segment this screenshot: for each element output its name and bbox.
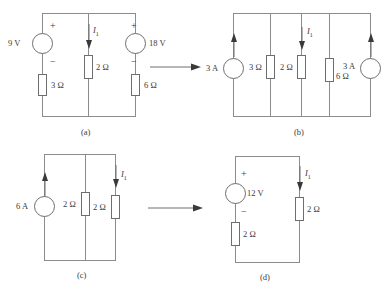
- polarity-minus-9v: −: [50, 57, 56, 67]
- label-9v: 9 V: [8, 39, 20, 48]
- polarity-plus-12v: +: [241, 169, 247, 179]
- label-3a-left: 3 A: [206, 64, 218, 73]
- source-arrow-b-right: [366, 33, 376, 57]
- label-6a: 6 A: [16, 202, 28, 211]
- resistor-2ohm-c-middle: [81, 192, 90, 216]
- current-arrow-c: [111, 165, 121, 189]
- current-label-b: I1: [307, 27, 313, 38]
- current-subscript-c: 1: [124, 175, 127, 181]
- resistor-2ohm-b: [297, 55, 306, 79]
- current-label-d: I1: [305, 169, 311, 180]
- label-3a-right: 3 A: [343, 62, 355, 71]
- voltage-source-9v: [32, 33, 53, 54]
- caption-d: (d): [260, 273, 270, 282]
- wire-c-top: [44, 154, 115, 155]
- label-2ohm-d-series: 2 Ω: [243, 230, 256, 239]
- resistor-2ohm-c-right: [111, 195, 120, 219]
- resistor-3ohm-b: [266, 55, 275, 79]
- current-source-3a-right: [360, 58, 381, 79]
- caption-c: (c): [77, 271, 86, 280]
- label-2ohm-a: 2 Ω: [96, 63, 109, 72]
- label-3ohm-b: 3 Ω: [249, 63, 262, 72]
- current-arrow-b: [297, 27, 307, 51]
- source-arrow-c: [40, 172, 50, 196]
- label-2ohm-c-middle: 2 Ω: [63, 200, 76, 209]
- current-subscript-d: 1: [308, 174, 311, 180]
- transition-arrow-c-to-d: [148, 202, 204, 214]
- resistor-6ohm-b: [325, 58, 334, 82]
- resistor-2ohm-a: [84, 55, 93, 79]
- label-2ohm-b: 2 Ω: [280, 63, 293, 72]
- current-label-a: I1: [93, 26, 99, 37]
- caption-a: (a): [81, 128, 90, 137]
- current-arrow-d: [295, 166, 305, 192]
- wire-d-left: [235, 156, 236, 263]
- label-18v: 18 V: [149, 39, 166, 48]
- resistor-3ohm-a: [38, 74, 47, 96]
- resistor-2ohm-d-branch: [295, 197, 304, 221]
- polarity-plus-18v: +: [131, 21, 137, 31]
- current-subscript-b: 1: [310, 32, 313, 38]
- polarity-minus-18v: −: [131, 57, 137, 67]
- voltage-source-18v: [125, 33, 146, 54]
- transition-arrow-a-to-b: [150, 61, 202, 73]
- figure-canvas: + − 9 V 3 Ω I1 2 Ω + − 18 V 6 Ω (a): [0, 0, 390, 292]
- label-3ohm-a: 3 Ω: [51, 81, 64, 90]
- polarity-minus-12v: −: [241, 207, 247, 217]
- resistor-2ohm-d-series: [231, 222, 240, 246]
- label-2ohm-d-branch: 2 Ω: [307, 205, 320, 214]
- wire-a-left: [42, 13, 43, 117]
- current-subscript-a: 1: [96, 31, 99, 37]
- resistor-6ohm-a: [131, 74, 140, 96]
- label-12v: 12 V: [247, 189, 264, 198]
- label-6ohm-a: 6 Ω: [144, 81, 157, 90]
- current-label-c: I1: [121, 170, 127, 181]
- wire-c-bottom: [44, 260, 115, 261]
- current-source-6a: [34, 196, 55, 217]
- polarity-plus-9v: +: [50, 21, 56, 31]
- wire-d-top: [235, 156, 299, 157]
- voltage-source-12v: [225, 183, 246, 204]
- wire-d-bottom: [235, 262, 299, 263]
- label-6ohm-b: 6 Ω: [336, 72, 349, 81]
- current-source-3a-left: [223, 58, 244, 79]
- caption-b: (b): [294, 128, 304, 137]
- label-2ohm-c-right: 2 Ω: [93, 203, 106, 212]
- source-arrow-b-left: [229, 33, 239, 57]
